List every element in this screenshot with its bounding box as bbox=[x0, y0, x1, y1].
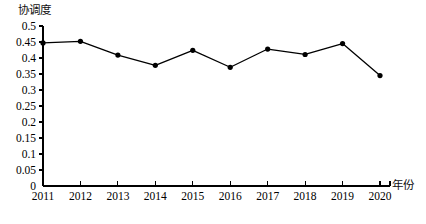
data-point-marker bbox=[153, 63, 158, 68]
data-point-marker bbox=[265, 46, 270, 51]
x-axis-tick-label: 2015 bbox=[181, 190, 204, 202]
series-line bbox=[43, 41, 380, 75]
chart-plot-area bbox=[0, 0, 426, 224]
x-axis-tick-label: 2018 bbox=[294, 190, 317, 202]
y-axis-tick-label: 0.4 bbox=[0, 52, 36, 64]
line-chart-figure: 协调度 年份 00.050.10.150.20.250.30.350.40.45… bbox=[0, 0, 426, 224]
data-point-marker bbox=[377, 73, 382, 78]
data-point-marker bbox=[40, 40, 45, 45]
x-axis-tick-label: 2014 bbox=[144, 190, 167, 202]
data-point-marker bbox=[78, 39, 83, 44]
x-axis bbox=[43, 181, 390, 186]
y-axis-tick-label: 0.05 bbox=[0, 164, 36, 176]
y-axis-tick-label: 0.2 bbox=[0, 116, 36, 128]
x-axis-tick-label: 2016 bbox=[219, 190, 242, 202]
data-point-marker bbox=[190, 48, 195, 53]
data-point-marker bbox=[228, 65, 233, 70]
y-axis-tick-label: 0.5 bbox=[0, 20, 36, 32]
y-axis-tick-label: 0.1 bbox=[0, 148, 36, 160]
y-axis-tick-label: 0.35 bbox=[0, 68, 36, 80]
data-series-coordination-degree bbox=[40, 39, 382, 78]
y-axis-tick-label: 0.3 bbox=[0, 84, 36, 96]
y-axis bbox=[39, 26, 43, 186]
x-axis-tick-label: 2017 bbox=[256, 190, 279, 202]
x-axis-tick-label: 2019 bbox=[331, 190, 354, 202]
y-axis-tick-label: 0.45 bbox=[0, 36, 36, 48]
data-point-marker bbox=[340, 41, 345, 46]
x-axis-tick-label: 2012 bbox=[69, 190, 92, 202]
data-point-marker bbox=[303, 52, 308, 57]
y-axis-tick-label: 0.25 bbox=[0, 100, 36, 112]
x-axis-tick-label: 2020 bbox=[369, 190, 392, 202]
y-axis-tick-label: 0.15 bbox=[0, 132, 36, 144]
x-axis-tick-label: 2011 bbox=[32, 190, 55, 202]
x-axis-tick-label: 2013 bbox=[106, 190, 129, 202]
y-axis-tick-label: 0 bbox=[0, 180, 36, 192]
data-point-marker bbox=[115, 53, 120, 58]
